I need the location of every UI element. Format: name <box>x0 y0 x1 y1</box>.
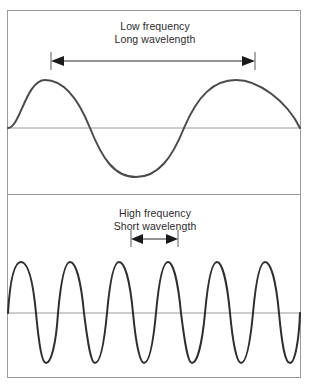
caption-high-frequency-line1: High frequency <box>0 207 310 220</box>
caption-low-frequency: Low frequency Long wavelength <box>0 20 310 45</box>
wave-graphics <box>0 0 310 386</box>
caption-low-frequency-line1: Low frequency <box>0 20 310 33</box>
caption-high-frequency: High frequency Short wavelength <box>0 207 310 232</box>
caption-high-frequency-line2: Short wavelength <box>0 220 310 233</box>
wavelength-arrowhead-left-low <box>51 56 64 66</box>
wavelength-arrowhead-left-high <box>131 234 143 244</box>
wavelength-arrowhead-right-high <box>166 234 178 244</box>
caption-low-frequency-line2: Long wavelength <box>0 33 310 46</box>
wavelength-arrowhead-right-low <box>242 56 255 66</box>
wavelength-frequency-figure: Low frequency Long wavelength High frequ… <box>0 0 310 386</box>
